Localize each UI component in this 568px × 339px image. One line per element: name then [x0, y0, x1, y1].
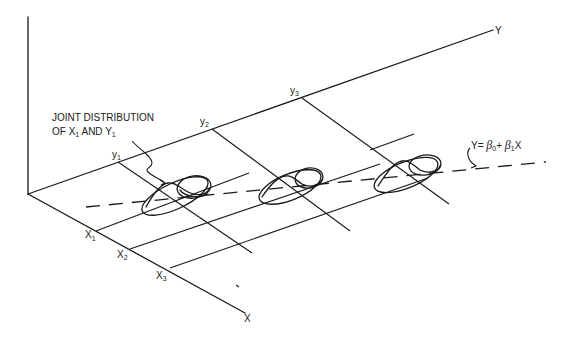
y2-label: y2 — [200, 116, 209, 128]
x2-label: X2 — [117, 249, 128, 261]
y2-tick-line — [212, 129, 350, 231]
regression-diagram: Y X y1 y2 y3 X1 X2 X3 JOINT DISTRIBUTION… — [0, 0, 568, 339]
annotation-line-2: OF X1 AND Y1 — [52, 126, 116, 138]
y1-tick-line — [118, 162, 252, 253]
annotation-line-1: JOINT DISTRIBUTION — [52, 112, 154, 123]
joint-distribution-1 — [137, 169, 213, 223]
regression-equation: Y= β0+ β1X — [471, 138, 522, 152]
y-axis-label: Y — [495, 25, 502, 36]
y1-label: y1 — [112, 149, 121, 161]
joint-distribution-3 — [370, 150, 443, 200]
y3-label: y3 — [290, 85, 299, 97]
x1-tick-line — [96, 173, 249, 231]
y3-tick-line — [302, 98, 449, 204]
equation-pointer — [468, 148, 476, 168]
x3-label: X3 — [156, 270, 167, 282]
stray-mark — [236, 285, 239, 287]
x-axis-label: X — [244, 313, 251, 324]
x3-tick-line-far — [370, 134, 414, 150]
x2-tick-line — [130, 164, 380, 249]
